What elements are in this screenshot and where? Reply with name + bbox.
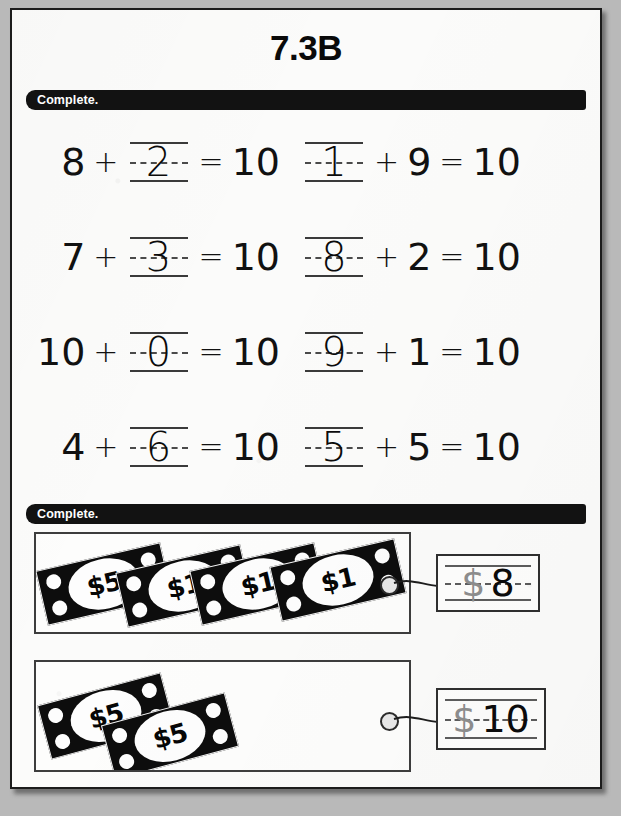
instruction-banner-1: Complete. <box>26 90 586 110</box>
money-answer-box-2[interactable]: $ 10 <box>436 688 546 750</box>
money-problem-2: $5 $5 $ 10 <box>12 660 602 784</box>
plus-operator: + <box>87 429 124 464</box>
handwritten-amount: 10 <box>481 700 529 738</box>
equals-operator: = <box>193 429 230 464</box>
addend: 8 <box>59 143 87 181</box>
bill-corner-dot <box>379 573 397 591</box>
handwritten-answer: 0 <box>130 328 188 376</box>
addend: 5 <box>405 428 433 466</box>
money-answer-content: $ 8 <box>438 556 538 610</box>
bill-corner-dot <box>45 573 63 591</box>
equals-operator: = <box>433 144 470 179</box>
equation-row: 8 + 2 = 10 1 + 9 <box>12 114 602 209</box>
handwritten-answer: 3 <box>130 233 188 281</box>
tag-guide-lines: $ 10 <box>438 690 544 748</box>
money-problem-1: $5 $1 $1 $1 <box>12 532 602 650</box>
bill-corner-dot <box>51 599 69 617</box>
instruction-banner-2: Complete. <box>26 504 586 524</box>
plus-operator: + <box>368 334 405 369</box>
sum: 10 <box>470 428 522 466</box>
answer-blank[interactable]: 9 <box>305 328 363 376</box>
addend: 2 <box>405 238 433 276</box>
sum: 10 <box>470 238 522 276</box>
answer-blank[interactable]: 6 <box>130 423 188 471</box>
sum: 10 <box>470 143 522 181</box>
bills-container-1: $5 $1 $1 $1 <box>34 532 411 634</box>
handwritten-answer: 1 <box>305 138 363 186</box>
bill-corner-dot <box>140 681 158 699</box>
equation-1-right: 1 + 9 = 10 <box>300 114 570 209</box>
tag-guide-lines: $ 8 <box>438 556 538 610</box>
handwritten-answer: 2 <box>130 138 188 186</box>
handwritten-answer: 8 <box>305 233 363 281</box>
equals-operator: = <box>433 334 470 369</box>
bills-container-2: $5 $5 <box>34 660 411 772</box>
bill-corner-dot <box>285 595 303 613</box>
sum: 10 <box>230 143 282 181</box>
money-answer-box-1[interactable]: $ 8 <box>436 554 540 612</box>
addend: 7 <box>59 238 87 276</box>
bill-corner-dot <box>131 601 149 619</box>
currency-symbol: $ <box>461 564 485 602</box>
bill-corner-dot <box>211 727 229 745</box>
equation-row: 7 + 3 = 10 8 + 2 <box>12 209 602 304</box>
handwritten-answer: 9 <box>305 328 363 376</box>
bill-corner-dot <box>46 706 64 724</box>
bill-corner-dot <box>125 575 143 593</box>
sum: 10 <box>230 238 282 276</box>
handwritten-amount: 8 <box>491 564 515 602</box>
equals-operator: = <box>193 239 230 274</box>
sum: 10 <box>230 333 282 371</box>
handwritten-answer: 6 <box>130 423 188 471</box>
equations-section: 8 + 2 = 10 1 + 9 <box>12 114 602 494</box>
equation-1-left: 8 + 2 = 10 <box>42 114 292 209</box>
plus-operator: + <box>87 239 124 274</box>
plus-operator: + <box>87 334 124 369</box>
answer-blank[interactable]: 5 <box>305 423 363 471</box>
bill-denomination: $1 <box>297 548 378 613</box>
bill-corner-dot <box>117 752 135 770</box>
equation-3-left: 10 + 0 = 10 <box>42 304 292 399</box>
answer-blank[interactable]: 3 <box>130 233 188 281</box>
addend: 4 <box>59 428 87 466</box>
answer-blank[interactable]: 2 <box>130 138 188 186</box>
answer-blank[interactable]: 8 <box>305 233 363 281</box>
addend: 9 <box>405 143 433 181</box>
money-answer-content: $ 10 <box>438 690 544 748</box>
equation-4-right: 5 + 5 = 10 <box>300 399 570 494</box>
plus-operator: + <box>368 429 405 464</box>
equation-row: 10 + 0 = 10 9 + 1 <box>12 304 602 399</box>
bill-corner-dot <box>53 732 71 750</box>
addend: 1 <box>405 333 433 371</box>
sum: 10 <box>230 428 282 466</box>
page-title: 7.3B <box>12 28 600 68</box>
equals-operator: = <box>433 429 470 464</box>
equation-4-left: 4 + 6 = 10 <box>42 399 292 494</box>
answer-blank[interactable]: 1 <box>305 138 363 186</box>
equals-operator: = <box>193 334 230 369</box>
bill-corner-dot <box>373 547 391 565</box>
equation-3-right: 9 + 1 = 10 <box>300 304 570 399</box>
answer-blank[interactable]: 0 <box>130 328 188 376</box>
plus-operator: + <box>87 144 124 179</box>
equals-operator: = <box>433 239 470 274</box>
bill-corner-dot <box>279 569 297 587</box>
currency-symbol: $ <box>452 700 476 738</box>
worksheet-page: 7.3B Complete. 8 + 2 = 10 <box>10 8 602 789</box>
plus-operator: + <box>368 144 405 179</box>
addend: 10 <box>35 333 87 371</box>
bill-corner-dot <box>205 599 223 617</box>
equals-operator: = <box>193 144 230 179</box>
sum: 10 <box>470 333 522 371</box>
handwritten-answer: 5 <box>305 423 363 471</box>
equation-2-left: 7 + 3 = 10 <box>42 209 292 304</box>
bill-corner-dot <box>199 573 217 591</box>
bill-corner-dot <box>204 701 222 719</box>
bill-corner-dot <box>110 726 128 744</box>
plus-operator: + <box>368 239 405 274</box>
equation-2-right: 8 + 2 = 10 <box>300 209 570 304</box>
equation-row: 4 + 6 = 10 5 + 5 <box>12 399 602 494</box>
